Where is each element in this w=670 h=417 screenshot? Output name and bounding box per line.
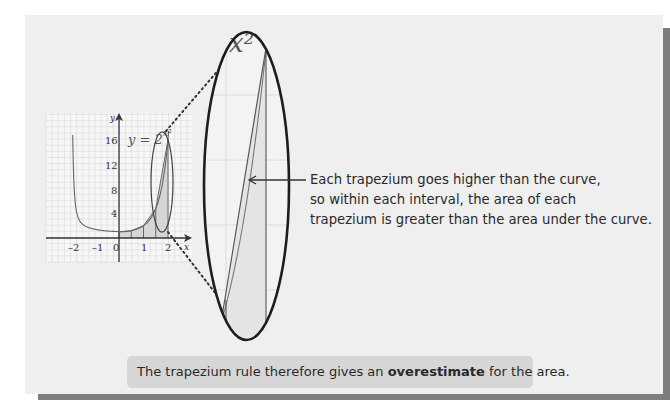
caption-text-after: for the area.	[485, 364, 570, 379]
x-tick-label: –2	[68, 242, 79, 253]
x-tick-label: 1	[141, 242, 147, 253]
curve-label: y = 2	[127, 132, 163, 147]
caption-bold-term: overestimate	[388, 364, 485, 379]
y-axis-label: y	[109, 113, 116, 123]
x-axis-label: x	[184, 242, 189, 252]
y-tick-label: 4	[111, 208, 117, 219]
small-graph: –2 –1 0 1 2 x 4 8 12 16 y y = 2 x²	[46, 113, 192, 262]
callout-line: trapezium is greater than the area under…	[310, 210, 660, 230]
x-tick-label: 2	[165, 242, 171, 253]
magnified-view: x²	[200, 28, 295, 345]
conclusion-caption: The trapezium rule therefore gives an ov…	[127, 356, 533, 388]
y-tick-label: 16	[105, 135, 118, 146]
y-tick-label: 12	[105, 160, 118, 171]
callout-line: so within each interval, the area of eac…	[310, 190, 660, 210]
explanation-callout: Each trapezium goes higher than the curv…	[310, 170, 660, 230]
y-tick-label: 8	[111, 185, 117, 196]
x-tick-label: 0	[113, 242, 119, 253]
caption-text-before: The trapezium rule therefore gives an	[137, 364, 388, 379]
x-tick-label: –1	[92, 242, 103, 253]
callout-line: Each trapezium goes higher than the curv…	[310, 170, 660, 190]
